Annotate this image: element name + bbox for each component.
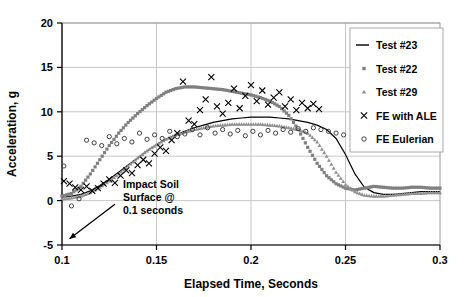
data-point-x	[163, 148, 169, 154]
data-point-circle	[100, 143, 104, 147]
data-point-square	[86, 175, 89, 178]
data-point-square	[292, 121, 295, 124]
y-axis-tick-labels: -505101520	[41, 17, 62, 251]
legend-label: FE Eulerian	[376, 133, 434, 145]
data-point-circle	[130, 140, 134, 144]
annotation-line: Impact Soil	[123, 178, 179, 190]
data-point-x	[203, 96, 209, 102]
y-tick-label: 0	[47, 195, 53, 207]
data-point-x	[271, 95, 277, 101]
data-point-square	[115, 135, 118, 138]
data-point-triangle	[318, 144, 322, 148]
data-point-x	[237, 105, 243, 111]
data-point-triangle	[327, 158, 331, 162]
data-point-x	[259, 87, 265, 93]
data-point-circle	[228, 132, 232, 136]
data-point-square	[89, 172, 92, 175]
data-point-x	[288, 96, 294, 102]
chart-legend: Test #23Test #22Test #29FE with ALEFE Eu…	[350, 28, 443, 152]
data-point-square	[301, 137, 304, 140]
data-point-square	[103, 151, 106, 154]
data-point-x	[208, 74, 214, 80]
data-point-circle	[221, 127, 225, 131]
data-point-square	[316, 162, 319, 165]
data-point-circle	[273, 131, 277, 135]
data-point-x	[129, 170, 135, 176]
data-point-x	[214, 103, 220, 109]
data-point-square	[323, 171, 326, 174]
legend-label: Test #23	[376, 39, 417, 51]
data-point-circle	[258, 133, 262, 137]
data-point-square	[313, 158, 316, 161]
data-point-circle	[168, 129, 172, 133]
data-point-x	[146, 160, 152, 166]
chart-container: 0.10.150.20.250.3 -505101520 Impact Soil…	[0, 0, 464, 297]
data-point-square	[290, 117, 293, 120]
x-tick-label: 0.25	[335, 254, 356, 266]
series-fe-with-ale	[61, 74, 322, 194]
data-point-x	[157, 144, 163, 150]
data-point-square	[308, 150, 311, 153]
legend-label: Test #29	[376, 86, 417, 98]
data-point-square	[108, 144, 111, 147]
data-point-square	[93, 165, 96, 168]
x-tick-label: 0.1	[54, 254, 69, 266]
data-point-circle	[137, 131, 141, 135]
data-point-circle	[122, 136, 126, 140]
data-point-circle	[198, 133, 202, 137]
data-point-circle	[266, 128, 270, 132]
data-point-square	[84, 179, 87, 182]
y-tick-label: 5	[47, 150, 53, 162]
data-point-circle	[115, 142, 119, 146]
data-point-x	[135, 162, 141, 168]
data-point-square	[306, 146, 309, 149]
data-point-square	[112, 138, 115, 141]
data-point-x	[282, 103, 288, 109]
data-point-triangle	[339, 176, 343, 180]
data-point-circle	[69, 204, 73, 208]
data-point-x	[84, 183, 90, 189]
data-point-triangle	[320, 147, 324, 151]
y-tick-label: 15	[41, 61, 53, 73]
data-point-triangle	[341, 179, 345, 183]
data-point-square	[320, 168, 323, 171]
data-point-circle	[213, 131, 217, 135]
data-point-circle	[289, 130, 293, 134]
data-point-circle	[160, 136, 164, 140]
data-point-x	[254, 98, 260, 104]
data-point-square	[299, 132, 302, 135]
data-point-x	[191, 121, 197, 127]
data-point-x	[276, 89, 282, 95]
data-point-square	[110, 141, 113, 144]
data-point-triangle	[336, 173, 340, 177]
acceleration-vs-time-chart: 0.10.150.20.250.3 -505101520 Impact Soil…	[0, 0, 464, 297]
data-point-circle	[236, 128, 240, 132]
data-point-x	[299, 100, 305, 106]
data-point-triangle	[322, 151, 326, 155]
data-point-square	[287, 114, 290, 117]
x-axis-title: Elapsed Time, Seconds	[184, 277, 318, 291]
data-point-square	[79, 185, 82, 188]
data-point-triangle	[329, 162, 333, 166]
data-point-square	[304, 141, 307, 144]
legend-label: Test #22	[376, 63, 417, 75]
data-point-square	[91, 169, 94, 172]
data-point-triangle	[344, 183, 348, 187]
x-axis-tick-labels: 0.10.150.20.250.3	[54, 245, 447, 266]
y-axis-title: Acceleration, g	[5, 91, 19, 177]
data-point-square	[105, 147, 108, 150]
data-point-x	[140, 157, 146, 163]
y-tick-label: 10	[41, 106, 53, 118]
data-point-square	[98, 158, 101, 161]
data-point-triangle	[334, 170, 338, 174]
annotation-line: Surface @	[123, 191, 175, 203]
data-point-x	[265, 102, 271, 108]
data-point-triangle	[332, 166, 336, 170]
data-point-square	[438, 187, 441, 190]
x-tick-label: 0.15	[146, 254, 167, 266]
data-point-circle	[243, 134, 247, 138]
data-point-x	[225, 100, 231, 106]
data-point-x	[180, 79, 186, 85]
data-point-x	[112, 180, 118, 186]
data-point-square	[318, 165, 321, 168]
